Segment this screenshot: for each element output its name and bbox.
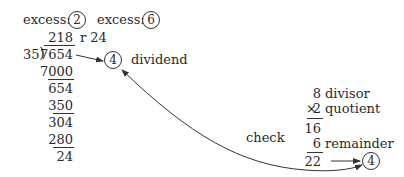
check-curve-arrow — [122, 70, 362, 171]
arrows — [0, 0, 404, 177]
arrow-dividend-to-excess — [76, 55, 103, 61]
